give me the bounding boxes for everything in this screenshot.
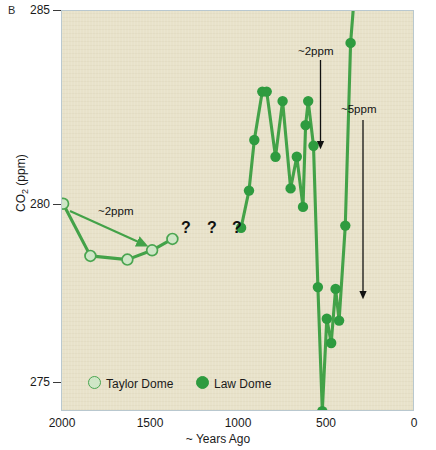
data-point xyxy=(322,314,332,324)
legend-label-law-dome: Law Dome xyxy=(214,377,271,391)
gap-question-mark-1: ? xyxy=(181,219,191,237)
data-point xyxy=(317,406,327,416)
data-point xyxy=(340,220,350,230)
legend-swatch-taylor-dome-icon xyxy=(88,376,101,389)
legend-item-law-dome: Law Dome xyxy=(196,376,271,391)
data-point xyxy=(303,96,313,106)
data-point xyxy=(167,234,178,245)
data-point xyxy=(277,96,287,106)
data-point xyxy=(262,86,272,96)
annotation-label-law-5ppm: ~5ppm xyxy=(341,103,376,115)
data-point xyxy=(313,282,323,292)
data-point xyxy=(330,284,340,294)
data-point xyxy=(85,251,96,262)
data-point xyxy=(308,141,318,151)
data-point xyxy=(58,198,69,209)
gap-question-mark-2: ? xyxy=(207,219,217,237)
data-point xyxy=(298,202,308,212)
series-markers-law-dome xyxy=(236,38,356,417)
data-point xyxy=(147,245,158,256)
annotation-label-taylor-2ppm: ~2ppm xyxy=(98,205,133,217)
data-point xyxy=(270,152,280,162)
gap-question-mark-3: ? xyxy=(232,219,242,237)
data-point xyxy=(249,135,259,145)
legend-item-taylor-dome: Taylor Dome xyxy=(88,376,173,391)
annotation-label-law-2ppm: ~2ppm xyxy=(298,45,333,57)
legend-swatch-law-dome-icon xyxy=(196,376,209,389)
legend-label-taylor-dome: Taylor Dome xyxy=(106,377,173,391)
data-point xyxy=(326,338,336,348)
series-line-law-dome xyxy=(241,0,354,411)
data-point xyxy=(345,38,355,48)
data-point xyxy=(300,120,310,130)
data-point xyxy=(334,315,344,325)
data-point xyxy=(285,183,295,193)
data-point xyxy=(122,254,133,265)
data-point xyxy=(292,152,302,162)
data-point xyxy=(244,185,254,195)
